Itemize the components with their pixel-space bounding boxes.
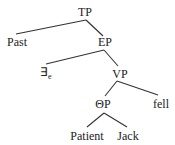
syntax-tree: TP Past EP ∃e VP ΘP fell Patient Jack — [0, 0, 175, 145]
edge-tp-past — [16, 20, 86, 34]
edge-vp-fell — [117, 81, 158, 95]
edge-ep-exists — [46, 50, 104, 64]
exists-symbol: ∃ — [40, 65, 48, 79]
node-ep: EP — [98, 35, 112, 49]
exists-subscript: e — [48, 72, 52, 81]
edge-vp-thetap — [105, 81, 117, 96]
node-exists-e: ∃e — [40, 65, 52, 81]
node-vp: VP — [112, 67, 128, 81]
node-past: Past — [7, 35, 28, 49]
node-jack: Jack — [117, 129, 138, 143]
edge-thetap-jack — [104, 113, 127, 127]
node-theta-p: ΘP — [95, 97, 111, 111]
edge-thetap-patient — [87, 113, 104, 127]
node-patient: Patient — [70, 129, 104, 143]
node-fell: fell — [153, 97, 170, 111]
edge-ep-vp — [104, 50, 118, 66]
edge-tp-ep — [86, 20, 103, 36]
node-tp: TP — [78, 5, 92, 19]
